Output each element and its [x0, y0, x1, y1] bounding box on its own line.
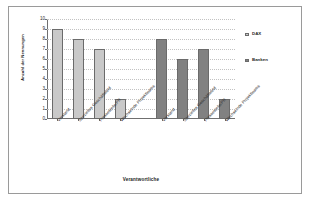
y-axis-tick-mark [45, 99, 47, 100]
y-axis-tick-mark [45, 69, 47, 70]
y-axis-tick-mark [45, 29, 47, 30]
plot-area: 012345678910 [47, 19, 235, 119]
bar-dax-0 [52, 29, 63, 119]
x-axis-category-labels: VorstandSpezielles GeschäftsfeldPressest… [47, 119, 235, 179]
legend-label-banken: Banken [252, 57, 268, 63]
legend-item-banken: Banken [245, 57, 297, 65]
chart-figure: Anzahl der Nennungen 012345678910 Vorsta… [8, 6, 302, 194]
y-axis-tick-mark [45, 39, 47, 40]
y-axis-tick-mark [45, 19, 47, 20]
x-axis-title: Verantwortliche [47, 177, 235, 182]
gridline [47, 29, 235, 30]
chart-legend: DAX Banken [245, 31, 297, 83]
y-axis-title: Anzahl der Nennungen [20, 23, 25, 93]
square-marker-light-icon [245, 33, 249, 37]
legend-label-dax: DAX [252, 31, 261, 37]
y-axis-tick-mark [45, 59, 47, 60]
y-axis-tick-mark [45, 109, 47, 110]
y-axis-tick-mark [45, 49, 47, 50]
bar-banken-2 [198, 49, 209, 119]
gridline [47, 19, 235, 20]
bar-dax-1 [73, 39, 84, 119]
y-axis-tick-mark [45, 89, 47, 90]
square-marker-dark-icon [245, 59, 249, 63]
bar-banken-1 [177, 59, 188, 119]
bar-dax-2 [94, 49, 105, 119]
y-axis-tick-mark [45, 79, 47, 80]
plot-canvas: 012345678910 [47, 19, 235, 119]
bar-banken-0 [156, 39, 167, 119]
legend-item-dax: DAX [245, 31, 297, 39]
